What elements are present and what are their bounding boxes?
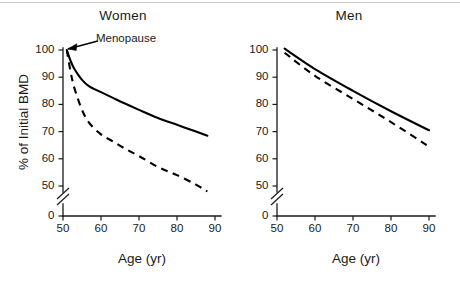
x-tick-label-women-60: 60 — [87, 223, 115, 235]
x-tick-label-men-70: 70 — [339, 223, 367, 235]
y-tick-label-men-70: 70 — [239, 126, 269, 138]
x-axis-title-men: Age (yr) — [257, 251, 455, 266]
figure-canvas: Women 100 90 80 70 60 50 0 50 60 70 80 9… — [0, 0, 460, 281]
y-axis-title-women: % of Initial BMD — [16, 74, 31, 170]
x-tick-label-women-70: 70 — [125, 223, 153, 235]
y-tick-label-men-100: 100 — [239, 44, 269, 56]
menopause-annotation-label: Menopause — [96, 32, 156, 44]
x-axis-title-women: Age (yr) — [43, 251, 241, 266]
x-tick-label-men-60: 60 — [301, 223, 329, 235]
y-tick-label-men-50: 50 — [239, 180, 269, 192]
chart-panel-men: Men 100 90 80 70 60 50 0 50 60 70 80 90 … — [232, 0, 460, 281]
y-tick-label-women-50: 50 — [25, 180, 55, 192]
x-tick-label-men-50: 50 — [263, 223, 291, 235]
x-tick-label-men-90: 90 — [415, 223, 443, 235]
y-tick-label-women-0: 0 — [25, 210, 55, 222]
x-tick-label-women-80: 80 — [163, 223, 191, 235]
x-tick-label-women-50: 50 — [49, 223, 77, 235]
y-tick-label-men-80: 80 — [239, 98, 269, 110]
y-tick-label-men-0: 0 — [239, 210, 269, 222]
x-tick-label-men-80: 80 — [377, 223, 405, 235]
y-tick-label-men-60: 60 — [239, 153, 269, 165]
y-tick-label-men-90: 90 — [239, 71, 269, 83]
x-tick-label-women-90: 90 — [201, 223, 229, 235]
y-tick-label-women-100: 100 — [25, 44, 55, 56]
chart-panel-women: Women 100 90 80 70 60 50 0 50 60 70 80 9… — [0, 0, 232, 281]
